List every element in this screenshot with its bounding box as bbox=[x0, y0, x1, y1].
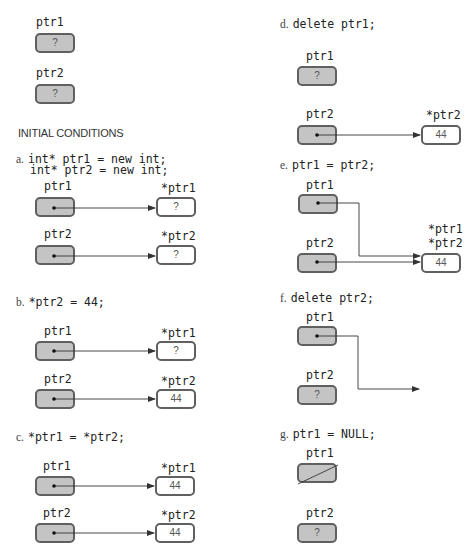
pointer-arrows bbox=[0, 0, 475, 557]
arrow-e-ptr1 bbox=[318, 203, 420, 256]
null-slash bbox=[298, 465, 338, 484]
arrow-f-dangling bbox=[317, 336, 419, 389]
